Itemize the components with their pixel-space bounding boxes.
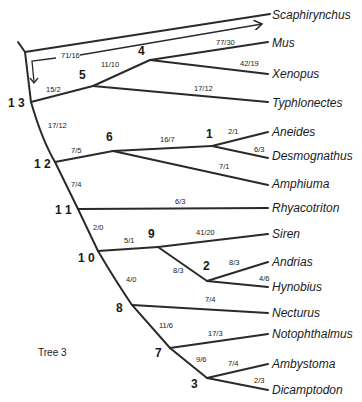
node-label-6: 6 bbox=[106, 130, 113, 144]
branch-mus bbox=[150, 42, 268, 60]
node-label-7: 7 bbox=[155, 346, 162, 360]
taxon-andrias: Andrias bbox=[271, 255, 313, 269]
branch-label-5-4: 11/10 bbox=[101, 60, 119, 69]
branch-label-amphiuma: 7/1 bbox=[219, 162, 229, 171]
taxon-xenopus: Xenopus bbox=[271, 67, 319, 81]
taxon-scaphirynchus: Scaphirynchus bbox=[272, 8, 351, 22]
branch-label-7-3: 9/6 bbox=[196, 355, 206, 364]
taxon-necturus: Necturus bbox=[272, 306, 320, 320]
taxon-dicamptodon: Dicamptodon bbox=[272, 383, 343, 397]
node-label-2: 2 bbox=[203, 259, 210, 273]
branch-amphiuma bbox=[113, 151, 268, 185]
branch-typhlonectes bbox=[93, 86, 268, 102]
taxon-hynobius: Hynobius bbox=[272, 280, 322, 294]
branch-label-notophthalmus: 17/3 bbox=[208, 329, 223, 338]
taxon-rhyacotriton: Rhyacotriton bbox=[272, 201, 340, 215]
branch-6-1 bbox=[113, 146, 212, 151]
node-label-5: 5 bbox=[79, 68, 86, 82]
branch-label-ambystoma: 7/4 bbox=[228, 359, 238, 368]
taxon-ambystoma: Ambystoma bbox=[271, 357, 336, 371]
node-label-1: 1 bbox=[206, 127, 213, 141]
branch-rhyacotriton bbox=[78, 208, 268, 209]
branch-aneides bbox=[212, 132, 268, 146]
branch-label-siren: 41/20 bbox=[196, 228, 215, 237]
branch-9-2 bbox=[158, 247, 207, 281]
taxon-aneides: Aneides bbox=[271, 125, 315, 139]
branch-label-mus: 77/30 bbox=[216, 38, 235, 47]
branch-label-13-12: 17/12 bbox=[48, 121, 67, 130]
node-label-13: 1 3 bbox=[8, 96, 25, 110]
branch-label-aneides: 2/1 bbox=[228, 127, 238, 136]
branch-label-8-7: 11/6 bbox=[159, 321, 173, 330]
branch-12-6 bbox=[55, 151, 113, 162]
branch-label-andrias: 8/3 bbox=[229, 258, 239, 267]
branch-label-typhlonectes: 17/12 bbox=[194, 84, 213, 93]
root-stub bbox=[18, 42, 25, 52]
branch-label-9-2: 8/3 bbox=[173, 266, 183, 275]
branch-necturus bbox=[132, 305, 268, 313]
node-label-11: 1 1 bbox=[55, 203, 72, 217]
branch-label-13-5: 15/2 bbox=[46, 85, 61, 94]
phylogenetic-tree: Scaphirynchus Mus Xenopus Typhlonectes A… bbox=[0, 0, 362, 402]
branch-label-12-6: 7/5 bbox=[71, 146, 81, 155]
branch-10-9 bbox=[98, 247, 158, 251]
branch-label-dicamptodon: 2/3 bbox=[254, 376, 264, 385]
taxon-amphiuma: Amphiuma bbox=[271, 177, 330, 191]
branch-label-11-10: 2/0 bbox=[93, 223, 103, 232]
branch-label-6-1: 16/7 bbox=[160, 135, 175, 144]
spine bbox=[25, 52, 207, 378]
branch-label-12-11: 7/4 bbox=[71, 180, 81, 189]
taxon-typhlonectes: Typhlonectes bbox=[272, 96, 342, 110]
taxon-siren: Siren bbox=[272, 227, 300, 241]
branch-label-hynobius: 4/6 bbox=[259, 274, 269, 283]
branch-13-5 bbox=[31, 86, 93, 102]
node-label-10: 1 0 bbox=[78, 251, 95, 265]
branch-label-root-move: 71/16 bbox=[61, 51, 80, 60]
taxon-notophthalmus: Notophthalmus bbox=[272, 327, 353, 341]
tree-caption: Tree 3 bbox=[38, 347, 67, 358]
taxon-mus: Mus bbox=[272, 36, 295, 50]
node-label-4: 4 bbox=[138, 44, 145, 58]
branch-label-xenopus: 42/19 bbox=[240, 59, 259, 68]
branch-label-necturus: 7/4 bbox=[205, 295, 215, 304]
branch-label-10-9: 5/1 bbox=[124, 236, 134, 245]
branch-label-10-8: 4/0 bbox=[126, 275, 136, 284]
taxon-desmognathus: Desmognathus bbox=[272, 149, 353, 163]
node-label-9: 9 bbox=[148, 227, 155, 241]
move-arrow-bracket bbox=[32, 58, 56, 82]
node-label-8: 8 bbox=[116, 301, 123, 315]
branch-label-desmognathus: 6/3 bbox=[254, 145, 264, 154]
node-label-3: 3 bbox=[191, 377, 198, 391]
node-label-12: 1 2 bbox=[34, 157, 51, 171]
branch-label-rhyacotriton: 6/3 bbox=[175, 197, 185, 206]
